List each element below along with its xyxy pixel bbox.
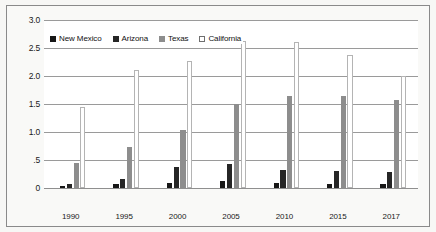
legend-swatch-icon	[113, 36, 119, 42]
bar-new-mexico-1990	[60, 186, 65, 188]
bar-new-mexico-2005	[220, 181, 225, 188]
gridline-.5	[44, 160, 418, 161]
x-axis-tick-label: 2017	[365, 212, 418, 221]
bar-california-1995	[134, 70, 139, 188]
bar-arizona-1990	[67, 184, 72, 188]
legend-item-california: California	[199, 34, 241, 43]
bar-california-2010	[294, 42, 299, 188]
plot-area: 0.51.01.52.02.53.01990199520002005201020…	[44, 20, 418, 188]
x-axis-tick-label: 1990	[44, 212, 97, 221]
chart-legend: New MexicoArizonaTexasCalifornia	[48, 33, 243, 44]
legend-label: New Mexico	[59, 34, 102, 43]
gridline-2.5	[44, 48, 418, 49]
y-axis-tick-label: 2.0	[2, 71, 40, 81]
y-axis-tick-label: 0	[2, 183, 40, 193]
bar-new-mexico-2010	[274, 183, 279, 188]
y-axis-tick-label: 2.5	[2, 43, 40, 53]
gridline-2.0	[44, 76, 418, 77]
bar-california-2000	[187, 61, 192, 188]
bar-california-2005	[241, 41, 246, 188]
bar-texas-2005	[234, 104, 239, 188]
y-axis-tick-label: 3.0	[2, 15, 40, 25]
bar-new-mexico-2015	[327, 184, 332, 188]
bar-arizona-2017	[387, 172, 392, 188]
legend-swatch-icon	[159, 36, 165, 42]
bar-texas-1990	[74, 163, 79, 188]
bar-arizona-1995	[120, 179, 125, 188]
bar-texas-2017	[394, 100, 399, 188]
bar-texas-1995	[127, 147, 132, 188]
legend-item-texas: Texas	[159, 34, 188, 43]
x-axis-tick-label: 2015	[311, 212, 364, 221]
bar-california-1990	[80, 107, 85, 188]
gridline-0	[44, 188, 418, 189]
x-axis-tick-label: 2005	[204, 212, 257, 221]
bar-arizona-2010	[280, 170, 285, 188]
bar-arizona-2000	[174, 167, 179, 188]
bar-california-2015	[347, 55, 352, 188]
legend-item-new-mexico: New Mexico	[50, 34, 102, 43]
legend-swatch-icon	[199, 36, 205, 42]
bar-texas-2015	[341, 96, 346, 188]
legend-swatch-icon	[50, 36, 56, 42]
y-axis-tick-label: .5	[2, 155, 40, 165]
x-axis-tick-label: 2010	[258, 212, 311, 221]
legend-label: Texas	[168, 34, 188, 43]
gridline-1.0	[44, 132, 418, 133]
bar-new-mexico-1995	[113, 184, 118, 188]
bar-california-2017	[401, 76, 406, 188]
x-axis-tick-label: 2000	[151, 212, 204, 221]
gridline-1.5	[44, 104, 418, 105]
bar-arizona-2015	[334, 171, 339, 188]
bar-new-mexico-2000	[167, 183, 172, 188]
chart-figure: 0.51.01.52.02.53.01990199520002005201020…	[0, 0, 436, 232]
bar-texas-2000	[180, 130, 185, 188]
bar-texas-2010	[287, 96, 292, 188]
gridline-3.0	[44, 20, 418, 21]
y-axis-tick-label: 1.0	[2, 127, 40, 137]
legend-item-arizona: Arizona	[113, 34, 148, 43]
x-axis-tick-label: 1995	[97, 212, 150, 221]
bar-new-mexico-2017	[380, 184, 385, 188]
bar-arizona-2005	[227, 164, 232, 188]
y-axis-tick-label: 1.5	[2, 99, 40, 109]
legend-label: Arizona	[122, 34, 148, 43]
legend-label: California	[208, 34, 241, 43]
